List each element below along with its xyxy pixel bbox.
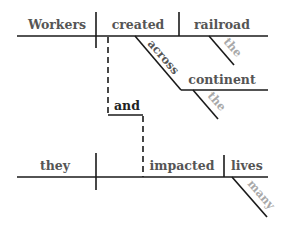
clause1-verb: created (112, 17, 165, 32)
clause1-subject: Workers (27, 17, 86, 32)
clause1-object-modifier: the (221, 35, 245, 60)
sentence-diagram: Workers created railroad the across cont… (0, 0, 283, 229)
clause1-object: railroad (194, 17, 250, 32)
prep-object-modifier: the (205, 89, 229, 114)
clause2-object: lives (231, 158, 263, 173)
clause2-verb: impacted (150, 158, 215, 173)
clause2-object-modifier: many (245, 177, 279, 213)
preposition: across (145, 37, 183, 77)
prep-object: continent (188, 72, 256, 87)
clause2-subject: they (40, 158, 71, 173)
conjunction: and (114, 98, 140, 113)
